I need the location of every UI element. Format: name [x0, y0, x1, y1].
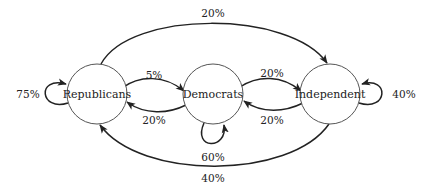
- edge-label-i-to-d: 20%: [260, 114, 283, 126]
- edge-label-r-to-d: 5%: [146, 69, 163, 81]
- edge-democrats-to-republicans: [127, 102, 186, 112]
- node-independent-label: Independent: [295, 88, 366, 101]
- edge-label-r-to-i: 20%: [201, 7, 224, 19]
- edge-label-d-self: 60%: [201, 151, 224, 163]
- transition-diagram: 20% 40% 5% 20% 20% 20% 75% 60% 40% Repub…: [0, 0, 426, 194]
- node-democrats: Democrats: [183, 64, 244, 124]
- edge-democrats-self-loop: [202, 123, 225, 144]
- edge-label-r-self: 75%: [16, 88, 39, 100]
- edge-republicans-to-independent: [101, 23, 327, 64]
- node-republicans: Republicans: [63, 64, 132, 124]
- node-democrats-label: Democrats: [183, 88, 244, 101]
- edge-label-i-to-r: 40%: [201, 172, 224, 184]
- node-republicans-label: Republicans: [63, 88, 132, 101]
- node-independent: Independent: [295, 64, 366, 124]
- edge-democrats-to-independent: [240, 78, 301, 91]
- edge-label-d-to-i: 20%: [260, 67, 283, 79]
- edge-label-i-self: 40%: [392, 88, 415, 100]
- edge-label-d-to-r: 20%: [142, 114, 165, 126]
- edge-independent-to-democrats: [244, 101, 303, 110]
